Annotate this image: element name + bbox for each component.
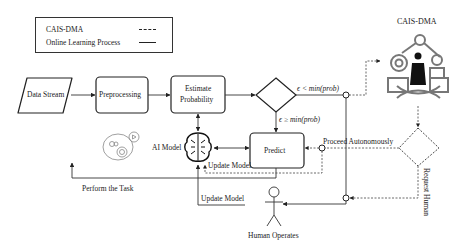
ai-brain-circuit-icon bbox=[185, 133, 212, 161]
gears-task-icon bbox=[103, 132, 139, 160]
eps-less-label: ϵ < min(prob) bbox=[297, 85, 339, 93]
predict-label: Predict bbox=[264, 147, 285, 155]
perform-task-label: Perform the Task bbox=[82, 185, 133, 193]
eps-geq-label: ϵ ≥ min(prob) bbox=[279, 116, 320, 124]
legend-swatch-solid bbox=[139, 42, 156, 43]
decision-diamond bbox=[256, 78, 296, 112]
cais-dma-title: CAIS-DMA bbox=[397, 18, 437, 26]
legend: CAIS-DMA Online Learning Process bbox=[35, 17, 173, 53]
estimate-label-line2: Probability bbox=[180, 96, 213, 104]
update-model-label-2: Update Model bbox=[201, 195, 244, 203]
preprocessing-label: Preprocessing bbox=[99, 91, 141, 99]
legend-label-online-learning: Online Learning Process bbox=[46, 38, 120, 47]
legend-label-cais-dma: CAIS-DMA bbox=[46, 25, 83, 34]
robot-arm-human-icon bbox=[388, 35, 448, 98]
update-model-label-1: Update Model bbox=[208, 162, 251, 170]
data-stream-label: Data Stream bbox=[27, 91, 64, 99]
junction-circle bbox=[343, 195, 349, 201]
legend-swatch-dashed bbox=[139, 29, 156, 30]
proceed-autonomously-label: Proceed Autonomously bbox=[323, 138, 393, 146]
request-human-label: Request Human bbox=[422, 168, 431, 216]
ai-model-label: AI Model bbox=[152, 144, 181, 152]
request-decision-diamond bbox=[399, 128, 439, 166]
human-operates-label: Human Operates bbox=[248, 232, 299, 240]
estimate-label-line1: Estimate bbox=[185, 85, 211, 93]
stick-figure-icon bbox=[265, 187, 283, 226]
junction-circle bbox=[343, 92, 349, 98]
